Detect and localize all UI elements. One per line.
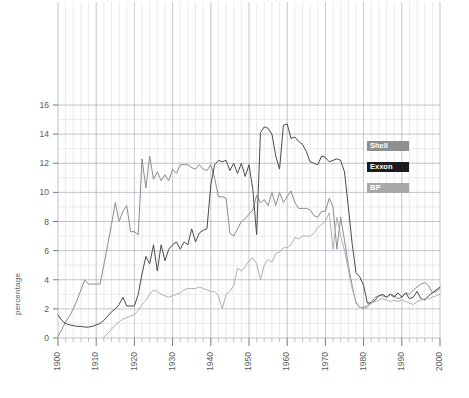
x-tick-label: 1980 <box>358 352 368 371</box>
y-tick-label: 4 <box>44 275 49 285</box>
y-tick-label: 10 <box>40 187 50 197</box>
y-axis-title: percentage <box>13 273 22 315</box>
y-tick-label: 14 <box>40 129 50 139</box>
x-tick-label: 2000 <box>434 352 444 371</box>
chart-container: 1900191019201930194019501960197019801990… <box>0 0 469 398</box>
legend-label: Exxon <box>370 162 393 171</box>
line-chart: 1900191019201930194019501960197019801990… <box>0 0 469 398</box>
x-tick-label: 1920 <box>129 352 139 371</box>
legend-item-exxon[interactable]: Exxon <box>367 162 409 172</box>
y-tick-label: 6 <box>44 246 49 256</box>
y-tick-label: 8 <box>44 217 49 227</box>
x-tick-label: 1900 <box>52 352 62 371</box>
y-tick-label: 12 <box>40 158 50 168</box>
x-tick-label: 1910 <box>90 352 100 371</box>
x-tick-label: 1970 <box>320 352 330 371</box>
legend-label: Shell <box>370 141 388 150</box>
x-tick-label: 1950 <box>243 352 253 371</box>
chart-legend: ShellExxonBP <box>367 141 409 193</box>
x-tick-label: 1990 <box>396 352 406 371</box>
legend-label: BP <box>370 183 380 192</box>
y-tick-label: 16 <box>40 100 50 110</box>
x-tick-label: 1960 <box>281 352 291 371</box>
y-tick-label: 0 <box>44 333 49 343</box>
y-tick-label: 2 <box>44 304 49 314</box>
x-tick-label: 1940 <box>205 352 215 371</box>
legend-item-bp[interactable]: BP <box>367 183 409 193</box>
y-axis-title-text: percentage <box>13 273 22 315</box>
x-tick-label: 1930 <box>167 352 177 371</box>
legend-item-shell[interactable]: Shell <box>367 141 409 151</box>
